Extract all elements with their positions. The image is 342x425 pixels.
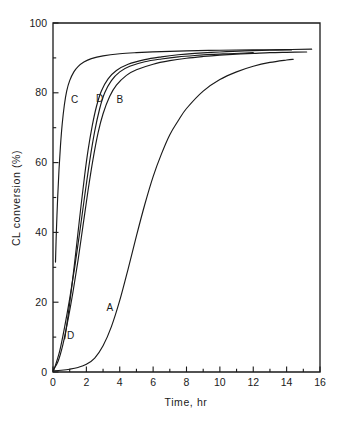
y-axis-title: CL conversion (%) <box>10 150 22 246</box>
x-tick-label: 4 <box>117 376 123 388</box>
y-tick-label: 60 <box>35 156 47 168</box>
x-tick-label: 6 <box>150 376 156 388</box>
curve-label-b: B <box>116 94 123 105</box>
curve-label-d-lower: D <box>67 330 74 341</box>
curve-label-a: A <box>106 302 113 313</box>
curve-d-upper <box>54 53 253 371</box>
x-tick-label: 0 <box>50 376 56 388</box>
curve-label-d-upper: D <box>96 93 103 104</box>
tick-marks <box>53 23 320 372</box>
y-tick-label: 80 <box>35 86 47 98</box>
y-tick-label: 0 <box>41 366 47 378</box>
y-tick-label: 20 <box>35 296 47 308</box>
y-tick-labels: 020406080100 <box>29 17 47 378</box>
y-tick-label: 100 <box>29 17 47 29</box>
x-tick-label: 16 <box>314 376 326 388</box>
x-tick-label: 8 <box>184 376 190 388</box>
x-tick-labels: 0246810121416 <box>50 376 326 388</box>
plot-frame <box>53 23 320 372</box>
x-axis-title: Time, hr <box>165 396 208 408</box>
curve-a <box>53 59 293 371</box>
curve-label-c: C <box>71 94 78 105</box>
axes <box>53 23 320 372</box>
chart-figure: 0246810121416 020406080100 ABCDD Time, h… <box>0 0 342 425</box>
x-tick-label: 10 <box>214 376 226 388</box>
data-curves <box>53 49 312 371</box>
x-tick-label: 12 <box>247 376 259 388</box>
curve-b <box>53 52 307 370</box>
x-tick-label: 2 <box>83 376 89 388</box>
y-tick-label: 40 <box>35 226 47 238</box>
line-chart: 0246810121416 020406080100 ABCDD Time, h… <box>0 0 342 425</box>
x-tick-label: 14 <box>281 376 293 388</box>
